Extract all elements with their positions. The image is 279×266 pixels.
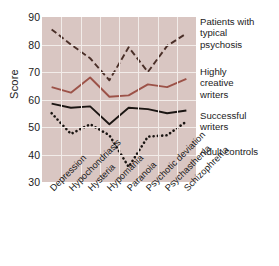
legend-label-line: writers [200,89,234,100]
legend-label-line: Successful [200,110,246,121]
legend-entry: Adult controls [200,146,258,157]
chart-container: Score 90807060504030 DepressionHypochond… [0,0,279,266]
legend-entry: Patients withtypicalpsychosis [200,16,254,50]
legend-label-line: Highly [200,66,234,77]
legend-label-line: writers [200,121,246,132]
legend-label-line: psychosis [200,39,254,50]
legend-label-line: creative [200,77,234,88]
legend-label-line: typical [200,27,254,38]
legend-label-line: Patients with [200,16,254,27]
legend-entry: Successfulwriters [200,110,246,133]
legend-entry: Highlycreativewriters [200,66,234,100]
legend-label-line: Adult controls [200,146,258,157]
